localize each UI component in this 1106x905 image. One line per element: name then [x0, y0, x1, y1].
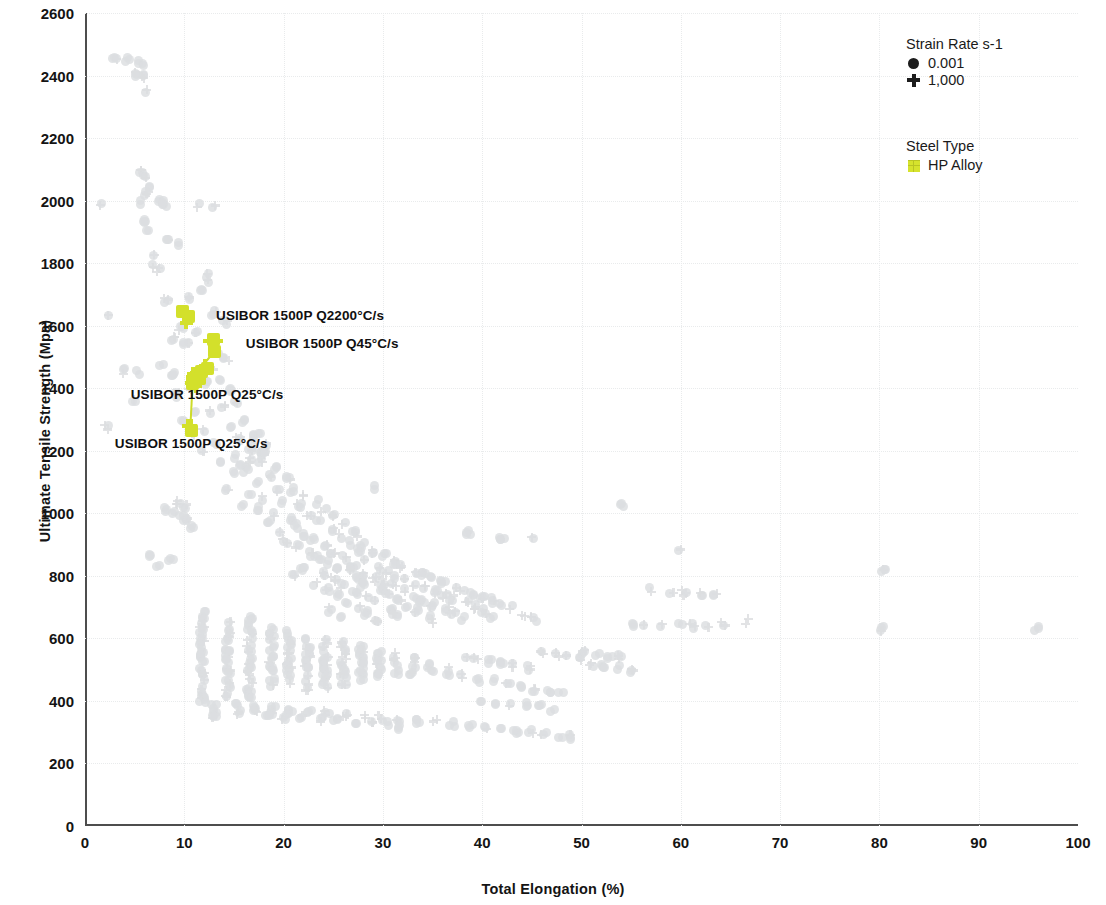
data-point	[200, 695, 209, 704]
y-tick-label: 2000	[16, 193, 74, 208]
data-point	[240, 416, 249, 425]
data-point	[206, 362, 215, 371]
data-point	[390, 574, 399, 583]
data-point	[286, 646, 295, 655]
data-point	[140, 218, 149, 227]
y-tick-label: 0	[16, 819, 74, 834]
data-point	[488, 599, 497, 608]
highlighted-data-point	[185, 424, 198, 437]
data-point	[427, 615, 436, 624]
data-point	[247, 647, 256, 656]
data-point	[351, 526, 360, 535]
data-point	[319, 569, 328, 578]
data-point	[300, 532, 309, 541]
data-point	[267, 623, 276, 632]
data-point	[305, 650, 314, 659]
data-point	[377, 656, 386, 665]
data-point	[293, 524, 302, 533]
legend-item-steel-0[interactable]: HP Alloy	[906, 157, 983, 173]
data-point	[391, 582, 400, 591]
data-point	[479, 604, 488, 613]
data-point	[336, 642, 345, 651]
data-point	[346, 565, 355, 574]
data-point	[443, 590, 452, 599]
data-point	[617, 652, 626, 661]
data-point	[374, 654, 383, 663]
data-point	[131, 68, 140, 77]
data-point	[357, 645, 366, 654]
data-point	[358, 652, 367, 661]
data-point	[415, 718, 424, 727]
gridline-vertical	[284, 13, 285, 826]
data-point	[262, 439, 271, 448]
data-point	[136, 196, 145, 205]
legend-steel-type-title: Steel Type	[906, 138, 983, 154]
data-point	[146, 551, 155, 560]
data-point	[407, 668, 416, 677]
data-point	[244, 684, 253, 693]
data-point	[460, 612, 469, 621]
data-point	[231, 699, 240, 708]
data-point	[195, 199, 204, 208]
data-point	[322, 635, 331, 644]
data-point	[306, 652, 315, 661]
data-point	[321, 672, 330, 681]
x-tick-label: 100	[1048, 835, 1106, 850]
data-point	[310, 535, 319, 544]
data-point	[179, 511, 188, 520]
data-point	[212, 700, 221, 709]
data-point	[503, 679, 512, 688]
data-point	[179, 503, 188, 512]
data-point	[328, 527, 337, 536]
data-point	[173, 496, 182, 505]
data-point	[378, 552, 387, 561]
data-point	[187, 428, 196, 437]
data-point	[390, 556, 399, 565]
data-point	[332, 564, 341, 573]
data-point	[354, 668, 363, 677]
data-point	[373, 672, 382, 681]
data-point	[286, 671, 295, 680]
data-point	[204, 278, 213, 287]
data-point	[119, 365, 128, 374]
data-point	[374, 670, 383, 679]
data-point	[337, 680, 346, 689]
data-point	[290, 570, 299, 579]
data-point	[110, 53, 119, 62]
data-point	[537, 700, 546, 709]
gridline-vertical	[383, 13, 384, 826]
data-point	[696, 588, 705, 597]
data-point	[679, 591, 688, 600]
data-point	[339, 637, 348, 646]
data-point	[320, 654, 329, 663]
data-point	[204, 269, 213, 278]
data-point	[370, 577, 379, 586]
data-point	[482, 609, 491, 618]
data-point	[198, 616, 207, 625]
data-point	[272, 463, 281, 472]
legend-item-strain-0[interactable]: 0.001	[906, 55, 1003, 71]
data-point	[286, 516, 295, 525]
data-point	[232, 433, 241, 442]
data-point	[184, 338, 193, 347]
data-point	[433, 586, 442, 595]
data-point	[318, 680, 327, 689]
data-point	[320, 665, 329, 674]
data-point	[613, 665, 622, 674]
data-point	[550, 705, 559, 714]
data-point	[224, 618, 233, 627]
data-point	[283, 632, 292, 641]
data-point	[216, 376, 225, 385]
data-point	[566, 733, 575, 742]
data-point	[291, 543, 300, 552]
data-point	[460, 586, 469, 595]
data-point	[243, 687, 252, 696]
data-point	[139, 217, 148, 226]
legend-item-strain-1[interactable]: 1,000	[906, 72, 1003, 88]
data-point	[224, 658, 233, 667]
highlighted-data-point	[199, 359, 212, 372]
data-point	[298, 711, 307, 720]
data-point	[171, 388, 180, 397]
data-point	[233, 710, 242, 719]
data-point	[319, 660, 328, 669]
